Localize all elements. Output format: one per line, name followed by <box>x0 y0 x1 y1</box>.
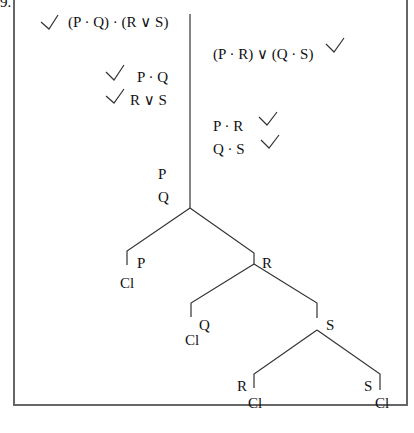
check-icon <box>259 112 277 125</box>
premise-1: (P · Q) · (R ∨ S) <box>68 15 168 30</box>
branch-l1-right-literal: R <box>262 256 272 271</box>
truth-tree-lines <box>0 0 414 433</box>
check-icon <box>106 89 124 103</box>
check-icon <box>326 38 344 52</box>
branch-l3-right-closed: Cl <box>375 396 389 411</box>
negated-conclusion: (P · R) ∨ (Q · S) <box>213 47 313 62</box>
premise-2: P · Q <box>137 70 168 85</box>
premise-3: R ∨ S <box>130 93 167 108</box>
branch-l2-left-closed: Cl <box>185 333 199 348</box>
branch-l3-right-literal: S <box>364 379 372 394</box>
check-icon <box>41 15 58 29</box>
trunk-literal-q: Q <box>158 190 169 205</box>
check-icon <box>261 135 279 148</box>
branch-l3-left-literal: R <box>237 379 247 394</box>
check-icon <box>106 65 124 80</box>
branch-l1-left-closed: Cl <box>120 276 134 291</box>
branch-l2-left-literal: Q <box>199 318 210 333</box>
decomposed-2: Q · S <box>213 142 245 157</box>
branch-l2-right-literal: S <box>326 318 334 333</box>
branch-l1-left-literal: P <box>137 256 145 271</box>
decomposed-1: P · R <box>213 119 243 134</box>
branch-l3-left-closed: Cl <box>248 396 262 411</box>
trunk-literal-p: P <box>158 167 166 182</box>
